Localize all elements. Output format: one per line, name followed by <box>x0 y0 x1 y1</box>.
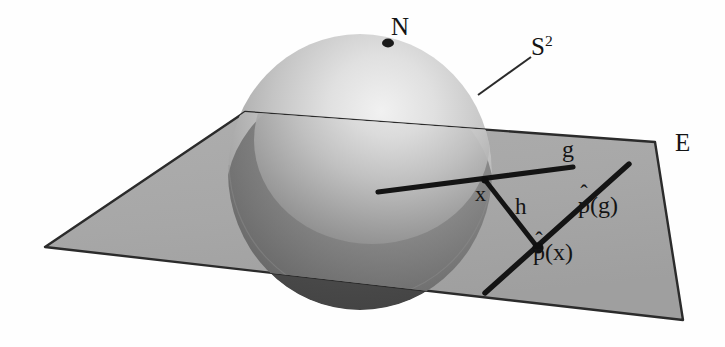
figure-canvas <box>0 0 725 347</box>
label-projected-point-p: p <box>533 239 545 265</box>
label-projected-geodesic-phat: ̂p <box>578 193 590 217</box>
label-north-pole: N <box>391 14 409 39</box>
geometry-figure: N S2 E g x h ̂p(g) ̂p(x) <box>0 0 725 347</box>
label-projected-geodesic-arg: (g) <box>590 192 618 218</box>
label-plane-e: E <box>675 130 690 155</box>
label-height-h: h <box>515 195 527 218</box>
label-projected-point-arg: (x) <box>545 239 573 265</box>
label-sphere-exponent: 2 <box>545 32 553 49</box>
label-geodesic-g: g <box>562 137 574 161</box>
label-point-x: x <box>475 183 486 205</box>
label-projected-point: ̂p(x) <box>533 240 573 264</box>
label-sphere-base: S <box>531 33 545 60</box>
label-projected-geodesic: ̂p(g) <box>578 193 618 217</box>
label-sphere-s2: S2 <box>531 34 553 59</box>
sphere-leader-line <box>478 57 531 95</box>
label-projected-geodesic-p: p <box>578 192 590 218</box>
label-projected-point-phat: ̂p <box>533 240 545 264</box>
